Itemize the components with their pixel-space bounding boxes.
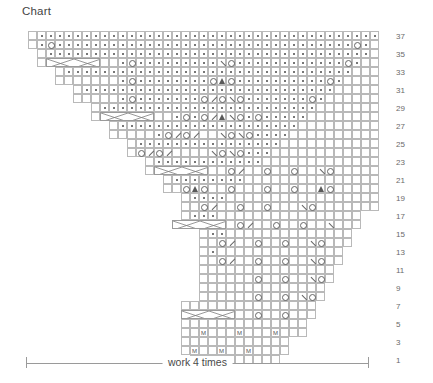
chart-cell [316, 103, 325, 112]
chart-symbol-dot [208, 121, 217, 130]
chart-cell [361, 76, 370, 85]
chart-symbol-cdd [217, 112, 226, 121]
chart-symbol-cdd [190, 184, 199, 193]
chart-cell [298, 175, 307, 184]
chart-cell [271, 202, 280, 211]
row-number-label: 37 [396, 32, 405, 41]
chart-symbol-dot [208, 229, 217, 238]
chart-cell [262, 301, 271, 310]
chart-cell [343, 175, 352, 184]
chart-symbol-dot [289, 85, 298, 94]
chart-symbol-dot [271, 103, 280, 112]
chart-symbol-dot [154, 85, 163, 94]
chart-symbol-dot [271, 121, 280, 130]
row-number-label: 11 [396, 266, 404, 275]
chart-cell [262, 310, 271, 319]
chart-cell [226, 193, 235, 202]
chart-symbol-dot [226, 175, 235, 184]
chart-symbol-dot [91, 85, 100, 94]
chart-symbol-ssk [226, 112, 235, 121]
chart-symbol-dot [343, 49, 352, 58]
chart-symbol-dot [190, 58, 199, 67]
chart-cell [262, 346, 271, 355]
chart-cell [253, 184, 262, 193]
chart-cell [244, 229, 253, 238]
chart-symbol-dot [154, 157, 163, 166]
chart-symbol-dot [208, 49, 217, 58]
chart-cell [370, 130, 379, 139]
cable-cross-symbol [172, 220, 226, 229]
chart-cell [307, 310, 316, 319]
chart-symbol-dot [163, 49, 172, 58]
chart-cell [298, 229, 307, 238]
chart-symbol-dot [190, 121, 199, 130]
chart-symbol-dot [235, 58, 244, 67]
chart-symbol-dot [181, 157, 190, 166]
chart-cell [145, 157, 154, 166]
chart-symbol-dot [46, 49, 55, 58]
chart-symbol-dot [163, 58, 172, 67]
chart-cell [226, 274, 235, 283]
chart-cell [280, 166, 289, 175]
row-number-label: 19 [396, 194, 405, 203]
chart-symbol-ssk [235, 130, 244, 139]
chart-symbol-yo [271, 220, 280, 229]
chart-symbol-yo [253, 292, 262, 301]
chart-cell [334, 139, 343, 148]
row-number-label: 25 [396, 140, 405, 149]
chart-symbol-dot [325, 49, 334, 58]
chart-symbol-dot [154, 121, 163, 130]
chart-symbol-dot [298, 85, 307, 94]
chart-symbol-dot [280, 94, 289, 103]
chart-cell [289, 220, 298, 229]
chart-symbol-dot [55, 40, 64, 49]
chart-cell [82, 94, 91, 103]
chart-symbol-yo [217, 256, 226, 265]
chart-cell [208, 301, 217, 310]
chart-cell [298, 211, 307, 220]
chart-cell [244, 247, 253, 256]
chart-cell [370, 175, 379, 184]
chart-symbol-dot [235, 157, 244, 166]
chart-symbol-dot [199, 193, 208, 202]
chart-symbol-dot [343, 40, 352, 49]
chart-symbol-dot [244, 76, 253, 85]
chart-symbol-dot [127, 49, 136, 58]
chart-cell [73, 85, 82, 94]
chart-symbol-yo [343, 58, 352, 67]
chart-cell [271, 265, 280, 274]
chart-symbol-dot [235, 85, 244, 94]
chart-cell [271, 256, 280, 265]
chart-cell [370, 166, 379, 175]
chart-cell [100, 76, 109, 85]
chart-symbol-yo [307, 94, 316, 103]
chart-cell [280, 175, 289, 184]
chart-symbol-dot [253, 139, 262, 148]
chart-symbol-m1: M [244, 346, 253, 355]
chart-cell [370, 49, 379, 58]
chart-symbol-cdd [316, 184, 325, 193]
chart-cell [244, 328, 253, 337]
chart-symbol-dot [235, 103, 244, 112]
chart-symbol-dot [181, 49, 190, 58]
chart-symbol-yo [208, 76, 217, 85]
chart-symbol-dot [163, 157, 172, 166]
chart-symbol-dot [136, 31, 145, 40]
chart-symbol-dot [316, 94, 325, 103]
chart-symbol-dot [334, 49, 343, 58]
chart-symbol-dot [352, 49, 361, 58]
chart-cell [370, 40, 379, 49]
chart-symbol-dot [307, 58, 316, 67]
chart-symbol-dot [217, 229, 226, 238]
chart-cell [226, 292, 235, 301]
chart-symbol-dot [253, 157, 262, 166]
chart-cell [370, 148, 379, 157]
chart-symbol-dot [127, 40, 136, 49]
chart-symbol-dot [271, 139, 280, 148]
chart-symbol-dot [118, 58, 127, 67]
chart-cell [280, 301, 289, 310]
chart-symbol-dot [226, 139, 235, 148]
chart-symbol-dot [145, 139, 154, 148]
chart-symbol-dot [100, 103, 109, 112]
chart-cell [352, 94, 361, 103]
